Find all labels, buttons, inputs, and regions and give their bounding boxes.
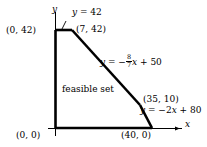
feasible-region-plot xyxy=(0,0,207,147)
constraint-steep-plus: + xyxy=(177,105,190,115)
figure-container: y x (0, 42) (7, 42) (35, 10) (40, 0) (0,… xyxy=(0,0,207,147)
constraint-mid-denominator: 7 xyxy=(126,62,131,69)
vertex-label-40-0: (40, 0) xyxy=(121,131,151,140)
constraint-y42-eq: = xyxy=(77,7,90,17)
constraint-label-steep-slope: y = −2x + 80 xyxy=(140,106,201,115)
constraint-steep-eq: = xyxy=(145,105,158,115)
vertex-label-0-0: (0, 0) xyxy=(16,131,40,140)
constraint-mid-fraction: 87 xyxy=(126,54,131,69)
y42-pointer-tick xyxy=(62,21,66,29)
vertex-label-7-42: (7, 42) xyxy=(76,25,106,34)
y-axis-label: y xyxy=(52,5,57,14)
vertex-label-35-10: (35, 10) xyxy=(143,95,179,104)
constraint-steep-sign: − xyxy=(158,105,166,115)
constraint-label-middle-slope: y = −87x + 50 xyxy=(100,54,162,69)
constraint-y42-rhs: 42 xyxy=(90,7,101,17)
feasible-set-label: feasible set xyxy=(62,85,114,94)
vertex-label-0-42: (0, 42) xyxy=(6,26,36,35)
constraint-mid-sign: − xyxy=(118,57,126,67)
constraint-label-y-equals-42: y = 42 xyxy=(72,8,102,17)
x-axis-arrowhead xyxy=(175,126,180,130)
constraint-mid-intercept: 50 xyxy=(150,57,161,67)
x-axis-label: x xyxy=(185,120,190,129)
constraint-mid-eq: = xyxy=(105,57,118,67)
constraint-steep-intercept: 80 xyxy=(190,105,201,115)
constraint-mid-plus: + xyxy=(137,57,150,67)
